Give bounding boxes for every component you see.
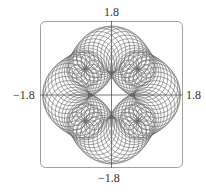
x-max-label: 1.8	[186, 89, 201, 101]
y-max-label: 1.8	[104, 6, 119, 18]
y-min-label: −1.8	[98, 172, 120, 184]
x-min-label: −1.8	[13, 89, 35, 101]
